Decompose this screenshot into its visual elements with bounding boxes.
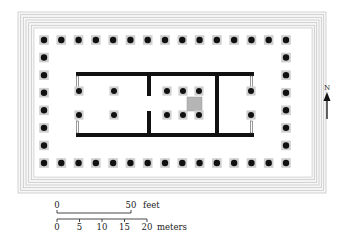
- opisthodomos-column: [248, 112, 254, 118]
- meters-scale-label: 15: [119, 222, 130, 232]
- pronaos-column: [111, 88, 117, 94]
- peristyle-column: [196, 160, 202, 166]
- peristyle-column: [145, 37, 151, 43]
- temple-plan-diagram: N 050feet05101520meters: [0, 0, 344, 240]
- naos-column: [196, 88, 202, 94]
- peristyle-column: [58, 160, 64, 166]
- peristyle-column: [231, 160, 237, 166]
- pronaos-column: [76, 88, 82, 94]
- cult-statue-base: [187, 97, 202, 111]
- north-label: N: [324, 84, 330, 92]
- feet-unit-label: feet: [143, 200, 160, 210]
- peristyle-column: [41, 54, 47, 60]
- peristyle-column: [266, 37, 272, 43]
- peristyle-column: [41, 125, 47, 131]
- peristyle-column: [283, 125, 289, 131]
- naos-column: [196, 112, 202, 118]
- peristyle-column: [179, 37, 185, 43]
- cella-cross-wall: [147, 111, 151, 137]
- naos-column: [164, 112, 170, 118]
- cella-north-wall: [76, 72, 254, 76]
- peristyle-column: [41, 142, 47, 148]
- feet-scale-label: 0: [54, 200, 59, 210]
- peristyle-column: [214, 160, 220, 166]
- naos-column: [180, 112, 186, 118]
- scale-bar: 050feet05101520meters: [54, 200, 187, 232]
- cella-south-wall: [76, 133, 254, 137]
- meters-scale-label: 5: [77, 222, 82, 232]
- stylobate: [34, 28, 312, 177]
- peristyle-column: [127, 37, 133, 43]
- pronaos-column: [111, 112, 117, 118]
- peristyle-column: [75, 37, 81, 43]
- cella-cross-wall: [147, 72, 151, 96]
- peristyle-column: [93, 37, 99, 43]
- peristyle-column: [266, 160, 272, 166]
- peristyle-column: [162, 37, 168, 43]
- pronaos-column: [76, 112, 82, 118]
- peristyle-column: [283, 54, 289, 60]
- peristyle-column: [179, 160, 185, 166]
- meters-scale-label: 0: [54, 222, 59, 232]
- meters-scale-label: 20: [142, 222, 153, 232]
- peristyle-column: [283, 90, 289, 96]
- peristyle-column: [283, 160, 289, 166]
- peristyle-column: [248, 37, 254, 43]
- peristyle-column: [196, 37, 202, 43]
- opisthodomos-column: [248, 88, 254, 94]
- peristyle-column: [127, 160, 133, 166]
- peristyle-column: [41, 160, 47, 166]
- peristyle-column: [283, 72, 289, 78]
- meters-scale-label: 10: [97, 222, 108, 232]
- peristyle-column: [231, 37, 237, 43]
- peristyle-column: [41, 107, 47, 113]
- peristyle-column: [110, 160, 116, 166]
- naos-column: [180, 88, 186, 94]
- peristyle-column: [93, 160, 99, 166]
- peristyle-column: [41, 37, 47, 43]
- peristyle-column: [58, 37, 64, 43]
- feet-scale-label: 50: [126, 200, 137, 210]
- peristyle-column: [162, 160, 168, 166]
- naos-column: [164, 88, 170, 94]
- peristyle-column: [110, 37, 116, 43]
- peristyle-column: [283, 107, 289, 113]
- peristyle-column: [283, 37, 289, 43]
- peristyle-column: [214, 37, 220, 43]
- peristyle-column: [283, 142, 289, 148]
- peristyle-column: [145, 160, 151, 166]
- peristyle-column: [75, 160, 81, 166]
- peristyle-column: [41, 90, 47, 96]
- peristyle-column: [248, 160, 254, 166]
- cella-cross-wall: [215, 72, 219, 137]
- peristyle-column: [41, 72, 47, 78]
- meters-unit-label: meters: [157, 222, 187, 232]
